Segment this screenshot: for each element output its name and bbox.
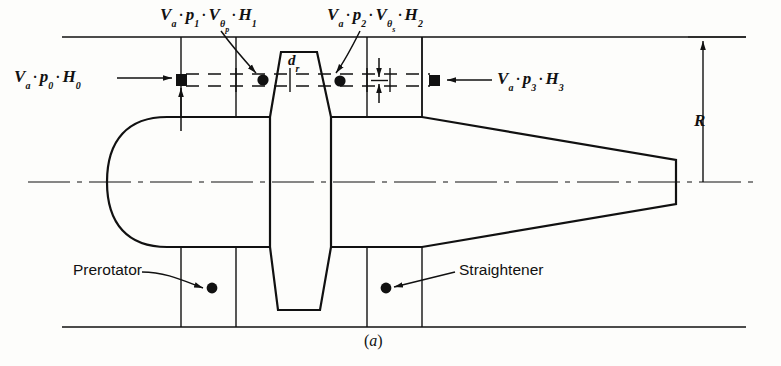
straightener-dot xyxy=(381,283,392,294)
station-marker-1 xyxy=(257,74,268,85)
station2-Vtheta: Vθs xyxy=(375,5,395,24)
station0-p: p0 xyxy=(40,67,54,86)
label-station-3: Va·p3·H3 xyxy=(497,70,564,87)
station-markers xyxy=(176,74,440,87)
h2-gap-dimension xyxy=(371,58,388,103)
dot: · xyxy=(31,70,40,85)
prerotator-dot xyxy=(207,283,218,294)
label-rotor-diameter: dr xyxy=(288,53,299,68)
station3-V: Va xyxy=(497,69,514,88)
rotor-blade xyxy=(270,52,331,310)
label-station-2: Va·p2·Vθs·H2 xyxy=(327,6,423,25)
station-marker-0 xyxy=(176,74,187,86)
station1-H: H1 xyxy=(238,5,257,24)
station0-V: Va xyxy=(14,67,31,86)
diagram-drawing xyxy=(0,0,781,366)
station1-p: p1 xyxy=(186,5,200,24)
station1-Vtheta: Vθp xyxy=(208,5,229,24)
station2-H: H2 xyxy=(405,5,424,24)
dot: · xyxy=(177,8,186,23)
label-station-1: Va·p1·Vθp·H1 xyxy=(160,6,257,25)
callout-dots xyxy=(207,283,392,294)
caption-text: (a) xyxy=(364,332,383,349)
stream-surface-lines xyxy=(186,74,430,86)
dot: · xyxy=(344,8,353,23)
dr-symbol: dr xyxy=(288,52,299,68)
dot: · xyxy=(514,72,523,87)
station2-V: Va xyxy=(327,5,344,24)
station2-p: p2 xyxy=(353,5,367,24)
station1-V: Va xyxy=(160,5,177,24)
station0-H: H0 xyxy=(62,67,81,86)
callout-leaders xyxy=(117,31,492,288)
radius-dimension xyxy=(688,37,746,182)
station3-p: p3 xyxy=(523,69,537,88)
label-straightener: Straightener xyxy=(459,262,543,278)
station-marker-3 xyxy=(429,75,440,86)
station-marker-2 xyxy=(334,75,345,86)
dot: · xyxy=(396,8,405,23)
label-radius: R xyxy=(694,112,705,129)
figure-caption: (a) xyxy=(364,333,383,349)
station3-H: H3 xyxy=(545,69,564,88)
label-station-0: Va·p0·H0 xyxy=(14,68,81,85)
label-prerotator: Prerotator xyxy=(73,262,142,278)
figure-container: Va·p1·Vθp·H1 Va·p2·Vθs·H2 Va·p0·H0 Va·p3… xyxy=(0,0,781,366)
